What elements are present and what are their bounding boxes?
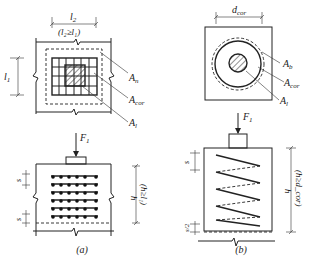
leader-An — [100, 52, 128, 73]
spiral-reinforcement — [216, 155, 260, 226]
svg-text:s: s — [182, 161, 191, 164]
diagram-canvas: l2 (l₂≥l₁) — [0, 0, 310, 266]
bearing-plate — [66, 157, 86, 164]
block-top-edge — [36, 39, 111, 45]
dimension-s-bottom: s — [14, 210, 30, 227]
mesh-layer-2 — [51, 183, 98, 187]
dimension-s-half: s/2 — [183, 221, 200, 235]
block-bottom-break — [33, 228, 114, 236]
mesh-layer-3 — [51, 191, 98, 195]
mesh-layer-1 — [51, 175, 98, 179]
force-arrow-head-b — [235, 128, 241, 134]
dimension-l1: l1 — [4, 56, 24, 97]
area-Al-hatched — [65, 65, 85, 86]
label-Ab: Ab — [282, 58, 293, 71]
bearing-plate-b — [229, 134, 247, 148]
dimension-s-b: s — [182, 150, 200, 173]
block-right — [109, 164, 114, 236]
force-label: F1 — [79, 132, 90, 145]
dim-l2-label: l2 — [70, 11, 77, 24]
block-left-edge — [33, 38, 38, 114]
svg-text:h: h — [283, 189, 293, 194]
dimension-s-top: s — [14, 170, 30, 189]
leader-Ab — [262, 52, 280, 63]
caption-a: (a) — [76, 244, 88, 256]
force-arrow-head — [73, 151, 79, 157]
label-Acor: Acor — [128, 94, 145, 107]
dimension-l2: l2 (l₂≥l₁) — [50, 11, 98, 37]
label-Al-b: Al — [279, 95, 288, 108]
mesh-layer-6 — [51, 215, 98, 219]
svg-text:s: s — [14, 179, 23, 182]
dim-l1-label: l1 — [4, 71, 10, 84]
svg-text:(h≥l₁): (h≥l₁) — [139, 184, 149, 205]
force-label-b: F1 — [242, 111, 253, 124]
figure-a-elevation: F1 s s — [14, 132, 149, 256]
svg-text:s/2: s/2 — [183, 223, 191, 232]
leader-Al — [82, 86, 128, 122]
dimension-h-b: h (h≥d_cor) — [283, 146, 304, 234]
figure-b-plan: dcor Ab Acor Al — [205, 4, 300, 108]
block-left — [33, 164, 38, 236]
dim-l2-note: (l₂≥l₁) — [58, 27, 80, 37]
mesh-layer-4 — [51, 199, 98, 203]
svg-text:s: s — [14, 218, 23, 221]
svg-text:h: h — [129, 196, 139, 201]
area-Al-hatched-circle — [229, 54, 247, 72]
svg-text:(h≥d_cor): (h≥d_cor) — [294, 170, 304, 206]
leader-Al-b — [246, 71, 279, 100]
dimension-h-a: h (h≥l₁) — [129, 164, 149, 225]
caption-b: (b) — [235, 244, 247, 256]
block-right-edge — [109, 38, 114, 114]
figure-b-elevation: F1 s s/2 — [182, 111, 304, 256]
figure-a-plan: l2 (l₂≥l₁) — [4, 11, 145, 130]
dimension-dcor: dcor — [214, 4, 264, 24]
block-bottom-edge — [36, 109, 111, 115]
label-Acor-b: Acor — [283, 77, 300, 90]
mesh-layer-5 — [51, 207, 98, 211]
label-An: An — [128, 72, 139, 85]
mesh-layers — [51, 175, 98, 219]
label-Al: Al — [128, 117, 137, 130]
dim-dcor-label: dcor — [232, 4, 247, 17]
